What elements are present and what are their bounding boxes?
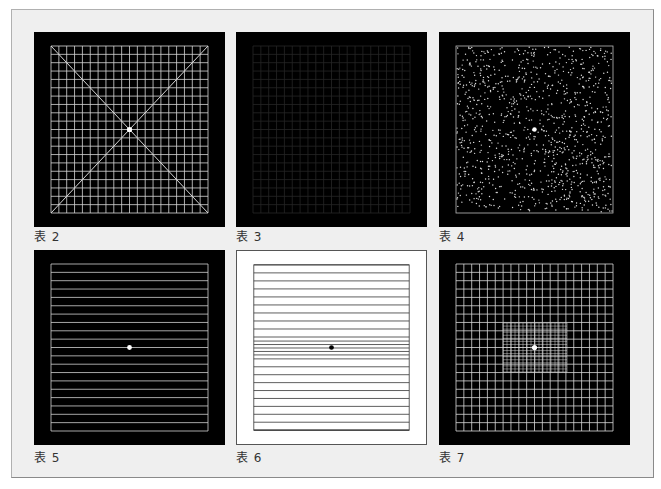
grid-fine-center-graphic [439, 250, 630, 445]
panel-label: 表 5 [34, 448, 60, 465]
panel-label: 表 4 [439, 227, 465, 244]
dim-grid-graphic [236, 32, 427, 227]
panel-label: 表 6 [236, 448, 262, 465]
panel-grid-fine-center [439, 250, 630, 445]
panel-random-dots [439, 32, 630, 227]
panel-label: 表 3 [236, 227, 262, 244]
amsler-grid-diagonals-graphic [34, 32, 225, 227]
horizontal-lines-graphic [34, 250, 225, 445]
panel-label: 表 2 [34, 227, 60, 244]
horizontal-lines-inverted-graphic [237, 251, 426, 444]
panel-dim-grid [236, 32, 427, 227]
panel-grid-with-diagonals [34, 32, 225, 227]
panel-horizontal-lines-inverted [236, 250, 427, 445]
panel-horizontal-lines [34, 250, 225, 445]
random-dots-graphic [439, 32, 630, 227]
panel-label: 表 7 [439, 448, 465, 465]
